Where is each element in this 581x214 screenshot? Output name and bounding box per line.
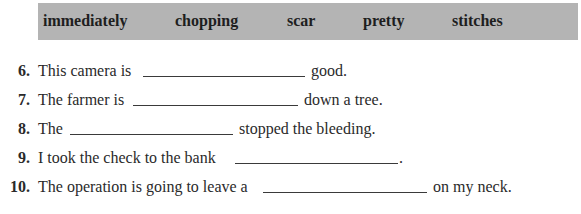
item-text-after: stopped the bleeding. — [239, 119, 375, 139]
word-bank-word: chopping — [175, 12, 238, 30]
exercise-item: 8. The stopped the bleeding. — [0, 119, 581, 141]
exercise-item: 6. This camera is good. — [0, 61, 581, 83]
exercise-item: 7. The farmer is down a tree. — [0, 90, 581, 112]
item-text-after: good. — [311, 61, 347, 81]
word-bank-word: scar — [287, 12, 315, 30]
item-text-before: The farmer is — [38, 90, 124, 110]
answer-blank[interactable] — [133, 105, 298, 106]
word-bank-word: stitches — [452, 12, 503, 30]
item-text-after: . — [399, 148, 403, 168]
item-text-before: The — [38, 119, 63, 139]
exercise-item: 10. The operation is going to leave a on… — [0, 177, 581, 199]
item-number: 10. — [2, 177, 30, 197]
item-text-after: on my neck. — [433, 177, 512, 197]
answer-blank[interactable] — [143, 76, 305, 77]
word-bank-word: pretty — [363, 12, 404, 30]
item-text-after: down a tree. — [304, 90, 383, 110]
item-number: 9. — [2, 148, 30, 168]
item-text-before: This camera is — [38, 61, 131, 81]
answer-blank[interactable] — [70, 134, 233, 135]
item-number: 8. — [2, 119, 30, 139]
item-number: 7. — [2, 90, 30, 110]
exercise-item: 9. I took the check to the bank . — [0, 148, 581, 170]
item-text-before: The operation is going to leave a — [38, 177, 248, 197]
answer-blank[interactable] — [263, 192, 427, 193]
word-bank-word: immediately — [43, 12, 127, 30]
answer-blank[interactable] — [235, 163, 398, 164]
word-bank: immediately chopping scar pretty stitche… — [38, 3, 578, 40]
item-number: 6. — [2, 61, 30, 81]
item-text-before: I took the check to the bank — [38, 148, 216, 168]
